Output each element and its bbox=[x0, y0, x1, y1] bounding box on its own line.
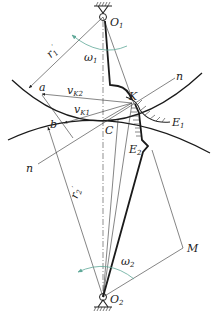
label-C: C bbox=[105, 124, 114, 137]
label-O2: O2 bbox=[110, 293, 124, 307]
label-a: a bbox=[39, 81, 46, 94]
label-vK2: vK2 bbox=[67, 84, 83, 98]
label-E2: E2 bbox=[128, 143, 142, 157]
label-M: M bbox=[186, 242, 199, 255]
label-E1: E1 bbox=[171, 116, 185, 130]
label-b: b bbox=[50, 118, 57, 131]
gear-mesh-diagram: O1 ω1 r1′ a vK2 vK1 K n b C E1 E2 n r2′ … bbox=[0, 0, 217, 321]
label-n-bottom: n bbox=[26, 162, 33, 175]
line-a-foot bbox=[42, 95, 73, 138]
line-M-E2 bbox=[152, 150, 183, 248]
velocity-vK2-arrow bbox=[42, 94, 132, 103]
label-omega2: ω2 bbox=[121, 255, 135, 269]
label-r2: r2′ bbox=[68, 185, 85, 200]
label-n-top: n bbox=[176, 70, 183, 83]
omega1-rotation-arrow bbox=[72, 35, 127, 50]
label-K: K bbox=[128, 90, 138, 103]
label-vK1: vK1 bbox=[74, 103, 90, 117]
label-r1: r1′ bbox=[44, 43, 62, 61]
label-O1: O1 bbox=[110, 16, 124, 30]
label-omega1: ω1 bbox=[84, 51, 97, 65]
